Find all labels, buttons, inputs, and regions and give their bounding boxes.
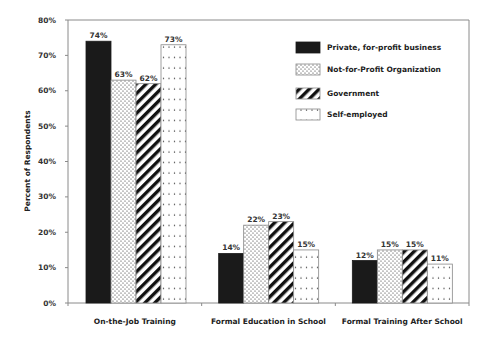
legend-label: Not-for-Profit Organization <box>327 65 441 74</box>
bar-value-label: 63% <box>115 70 133 79</box>
bar <box>86 41 111 303</box>
legend-swatch <box>296 42 320 53</box>
bar <box>352 261 377 303</box>
y-axis: 0%10%20%30%40%50%60%70%80% <box>38 16 68 308</box>
y-tick-label: 40% <box>38 157 56 166</box>
y-tick-label: 30% <box>38 192 56 201</box>
x-axis: On-the-Job TrainingFormal Education in S… <box>68 303 469 326</box>
bar-value-label: 62% <box>140 74 158 83</box>
bar-value-label: 15% <box>297 240 315 249</box>
bar <box>294 250 319 303</box>
legend-swatch <box>296 109 320 120</box>
bar-chart: 0%10%20%30%40%50%60%70%80% On-the-Job Tr… <box>0 0 492 338</box>
bar-value-label: 74% <box>90 31 108 40</box>
x-category-label: On-the-Job Training <box>94 317 176 326</box>
y-tick-label: 20% <box>38 228 56 237</box>
y-tick-label: 60% <box>38 86 56 95</box>
x-category-label: Formal Training After School <box>342 317 463 326</box>
x-category-label: Formal Education in School <box>211 317 326 326</box>
y-tick-label: 10% <box>38 263 56 272</box>
legend: Private, for-profit businessNot-for-Prof… <box>296 42 442 120</box>
y-axis-title: Percent of Respondents <box>23 110 32 212</box>
y-tick-label: 50% <box>38 122 56 131</box>
bar <box>244 225 269 303</box>
bar <box>161 45 186 303</box>
bar <box>111 80 136 303</box>
bar <box>219 253 244 303</box>
legend-label: Self-employed <box>327 110 388 119</box>
bar <box>427 264 452 303</box>
bar <box>136 84 161 303</box>
legend-label: Government <box>327 89 380 98</box>
bar-value-label: 15% <box>381 240 399 249</box>
bar <box>402 250 427 303</box>
legend-swatch <box>296 64 320 75</box>
legend-swatch <box>296 88 320 99</box>
bar-value-label: 23% <box>272 212 290 221</box>
bar-value-label: 15% <box>406 240 424 249</box>
bar-value-label: 73% <box>165 35 183 44</box>
bar-value-label: 14% <box>222 243 240 252</box>
y-tick-label: 70% <box>38 51 56 60</box>
bar-value-label: 11% <box>431 254 449 263</box>
bar-value-label: 12% <box>356 251 374 260</box>
bar <box>377 250 402 303</box>
y-tick-label: 80% <box>38 16 56 25</box>
legend-label: Private, for-profit business <box>327 43 442 52</box>
y-tick-label: 0% <box>43 299 56 308</box>
bar <box>269 222 294 303</box>
bar-value-label: 22% <box>247 215 265 224</box>
